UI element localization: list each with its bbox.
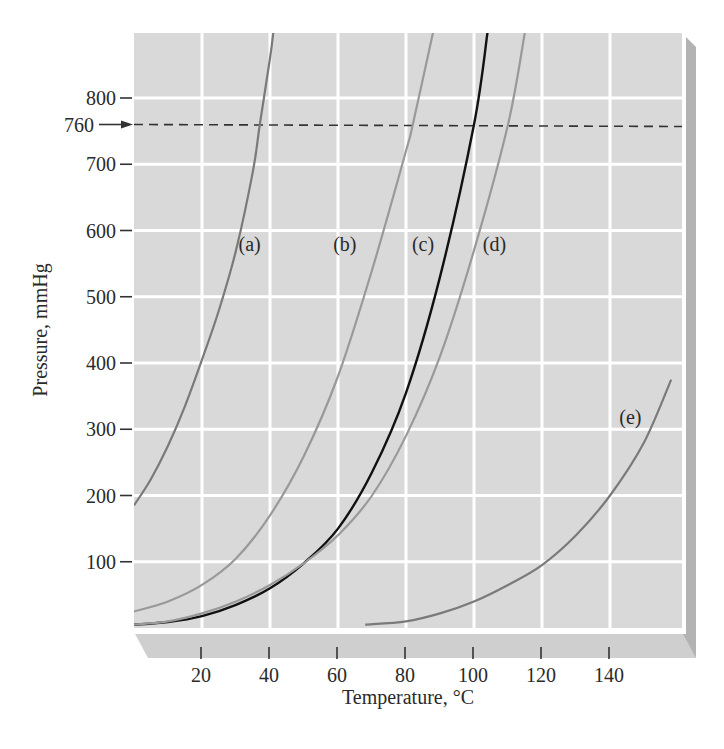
curve-label-d: (d) (483, 233, 506, 256)
y-tick-label: 300 (86, 418, 116, 440)
y-tick-label: 700 (86, 153, 116, 175)
y-axis: 100200300400500600700800 (86, 87, 132, 573)
plot-area (134, 33, 682, 628)
x-tick-label: 20 (191, 664, 211, 686)
x-tick-label: 120 (526, 664, 556, 686)
x-tick-label: 40 (259, 664, 279, 686)
y-tick-label: 100 (86, 551, 116, 573)
y-tick-label: 200 (86, 485, 116, 507)
y-tick-label: 800 (86, 87, 116, 109)
x-axis-title: Temperature, °C (342, 686, 474, 709)
curve-label-c: (c) (412, 233, 434, 256)
y-tick-label: 500 (86, 286, 116, 308)
arrow-icon (121, 121, 133, 129)
vapor-pressure-chart: 760 (a)(b)(c)(d)(e) 10020030040050060070… (0, 0, 724, 749)
curve-label-a: (a) (238, 233, 260, 256)
x-tick-label: 60 (327, 664, 347, 686)
reference-line-label: 760 (64, 114, 94, 136)
curve-label-b: (b) (333, 233, 356, 256)
y-axis-title: Pressure, mmHg (29, 263, 52, 396)
x-tick-label: 100 (458, 664, 488, 686)
y-tick-label: 400 (86, 352, 116, 374)
y-tick-label: 600 (86, 220, 116, 242)
x-tick-label: 140 (594, 664, 624, 686)
bevel-bottom (134, 632, 696, 658)
x-tick-label: 80 (395, 664, 415, 686)
curve-label-e: (e) (619, 406, 641, 429)
